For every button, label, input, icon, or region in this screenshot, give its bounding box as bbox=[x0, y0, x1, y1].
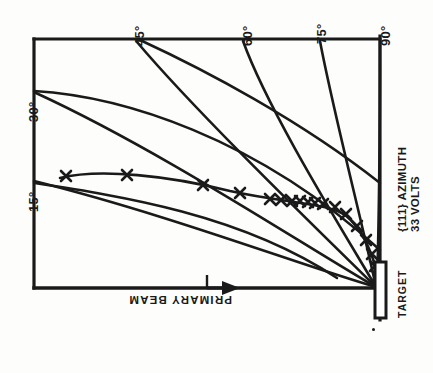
radial-line-30 bbox=[36, 93, 376, 287]
axis-tick-60: 60° bbox=[240, 25, 255, 46]
axis-tick-15: 15° bbox=[26, 191, 41, 212]
data-point-markers bbox=[61, 170, 382, 281]
axis-tick-30: 30° bbox=[26, 101, 41, 122]
grid-arc-2 bbox=[34, 91, 380, 250]
primary-beam-arrow bbox=[207, 275, 240, 295]
axis-tick-90: 90° bbox=[378, 25, 393, 46]
primary-beam-label: PRIMARY BEAM bbox=[128, 294, 232, 306]
target-label: TARGET bbox=[396, 270, 408, 318]
azimuth-radial-lines bbox=[34, 40, 380, 287]
azimuth-label: {111} AZIMUTH bbox=[396, 147, 409, 232]
diagram-svg bbox=[0, 0, 433, 373]
target-bar bbox=[375, 262, 386, 318]
volts-label: 33 VOLTS bbox=[409, 176, 422, 232]
axis-tick-45: 45° bbox=[132, 25, 147, 46]
stray-ink-dot bbox=[372, 328, 375, 331]
grid-arc-1 bbox=[34, 183, 337, 278]
figure-canvas: 15° 30° 45° 60° 75° 90° {111} AZIMUTH 33… bbox=[0, 0, 433, 373]
axis-tick-75: 75° bbox=[314, 23, 329, 44]
data-curve bbox=[60, 174, 378, 285]
